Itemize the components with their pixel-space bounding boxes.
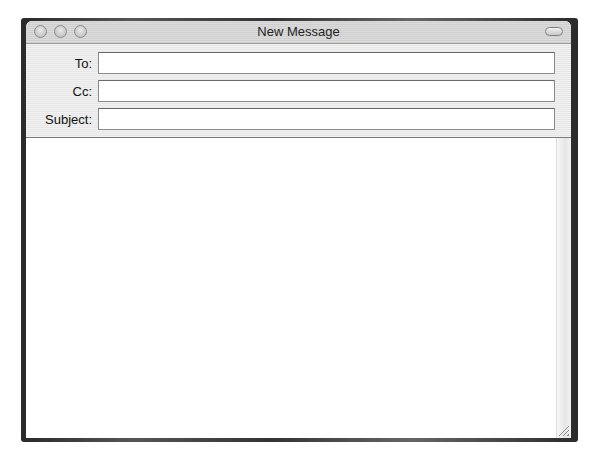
window-title: New Message bbox=[26, 24, 571, 39]
new-message-window: New Message To: Cc: Subject: bbox=[26, 21, 571, 438]
to-field[interactable] bbox=[98, 52, 555, 74]
to-row: To: bbox=[26, 52, 571, 76]
cc-row: Cc: bbox=[26, 80, 571, 104]
title-bar[interactable]: New Message bbox=[26, 21, 571, 44]
cc-field[interactable] bbox=[98, 80, 555, 102]
subject-row: Subject: bbox=[26, 108, 571, 132]
to-label: To: bbox=[75, 56, 92, 71]
message-header: To: Cc: Subject: bbox=[26, 44, 571, 138]
message-body[interactable] bbox=[26, 138, 560, 438]
subject-field[interactable] bbox=[98, 108, 555, 130]
cc-label: Cc: bbox=[73, 84, 93, 99]
toolbar-toggle-button[interactable] bbox=[545, 27, 563, 36]
subject-label: Subject: bbox=[45, 112, 92, 127]
vertical-scrollbar[interactable] bbox=[556, 138, 571, 438]
